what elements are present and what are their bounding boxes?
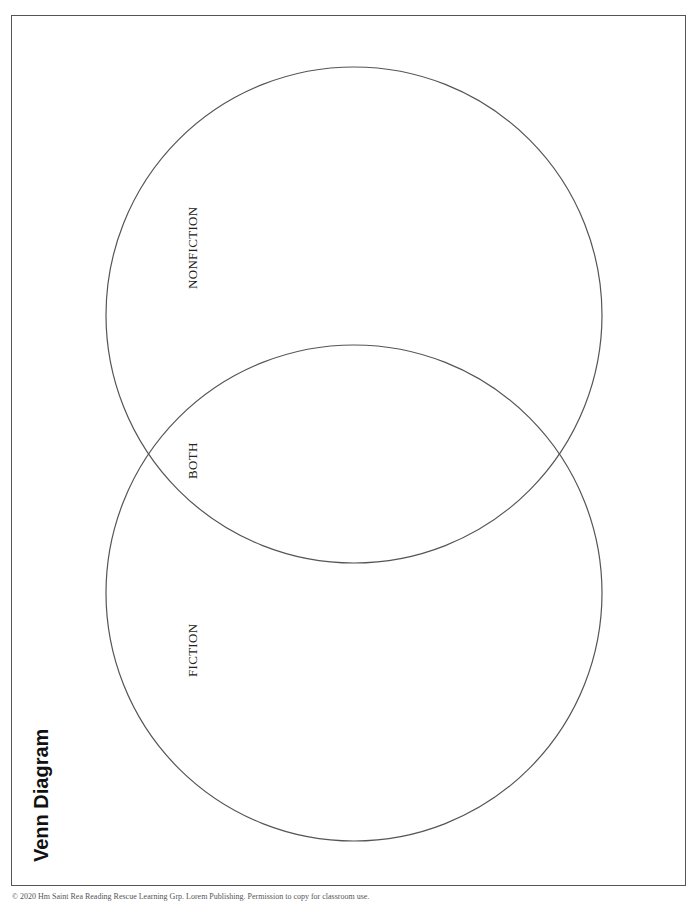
nonfiction-label: NONFICTION xyxy=(185,207,201,289)
both-label: BOTH xyxy=(185,442,201,479)
fiction-label: FICTION xyxy=(185,624,201,677)
nonfiction-circle xyxy=(106,67,602,563)
copyright-footer: © 2020 Hm Saint Rea Reading Rescue Learn… xyxy=(12,892,369,901)
page-title: Venn Diagram xyxy=(30,729,53,862)
fiction-circle xyxy=(106,345,602,841)
venn-diagram xyxy=(0,0,695,901)
